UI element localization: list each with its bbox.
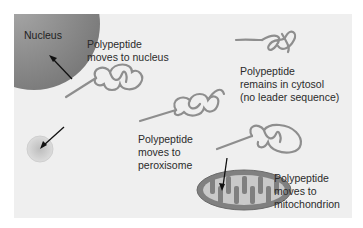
label-nucleus-pathway: Polypeptide moves to nucleus [87, 38, 169, 64]
diagram-panel: Nucleus Polypeptide moves to nucleus Pol… [14, 14, 352, 218]
nucleus-label: Nucleus [24, 29, 62, 41]
polypeptide-peroxisome-icon [140, 90, 224, 121]
polypeptide-mitochondrion-icon [217, 125, 301, 153]
label-cytosol-pathway: Polypeptide remains in cytosol (no leade… [240, 65, 339, 104]
label-peroxisome-pathway: Polypeptide moves to peroxisome [138, 133, 193, 172]
label-mitochondrion-pathway: Polypeptide moves to mitochondrion [274, 172, 340, 211]
polypeptide-cytosol-icon [236, 32, 295, 52]
